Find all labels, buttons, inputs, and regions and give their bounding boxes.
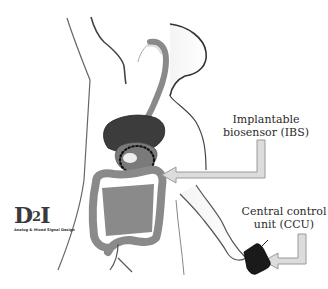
- ccu-label-line1: Central control: [240, 205, 328, 218]
- esophagus: [142, 42, 166, 126]
- stomach-highlight: [123, 153, 137, 163]
- ibs-label-line2: biosensor (IBS): [217, 126, 315, 139]
- ccu-device: [244, 240, 270, 274]
- logo-mark: D2I: [14, 204, 49, 230]
- large-intestine: [93, 170, 163, 272]
- ccu-label-line2: unit (CCU): [240, 218, 328, 231]
- d2in-logo: D2I Analog & Mixed Signal Design: [14, 204, 78, 238]
- logo-superscript: 2: [32, 209, 40, 224]
- ibs-arrow: [162, 140, 265, 183]
- logo-subtitle: Analog & Mixed Signal Design: [14, 228, 75, 232]
- logo-letter-i: I: [40, 202, 49, 228]
- ibs-label-line1: Implantable: [217, 113, 315, 126]
- logo-letter-d: D: [14, 202, 32, 228]
- ccu-label: Central control unit (CCU): [240, 205, 328, 231]
- ibs-label: Implantable biosensor (IBS): [217, 113, 315, 139]
